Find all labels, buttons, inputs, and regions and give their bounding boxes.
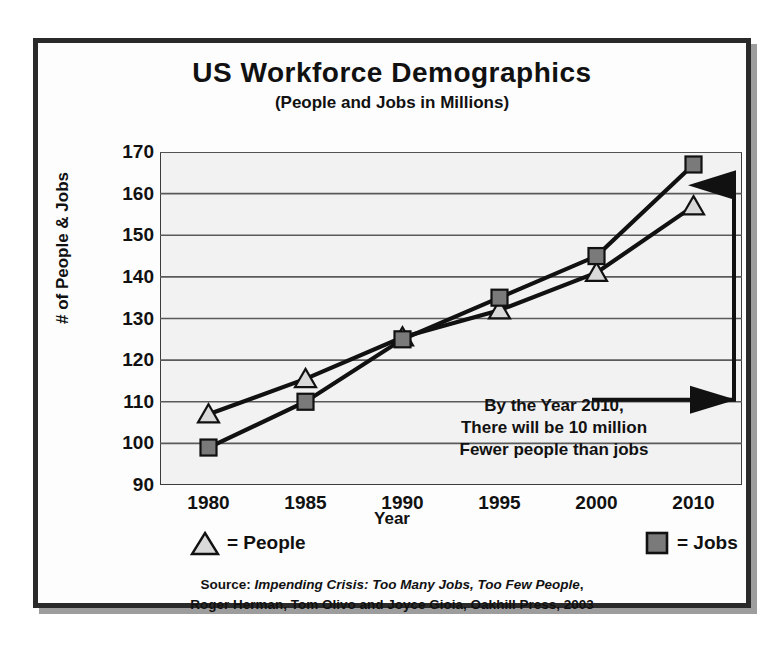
annotation-line-1: By the Year 2010, bbox=[423, 395, 685, 417]
source-prefix: Source: bbox=[200, 577, 250, 592]
legend-jobs-label: = Jobs bbox=[677, 532, 738, 554]
source-title: Impending Crisis: Too Many Jobs, Too Few… bbox=[254, 577, 579, 592]
y-axis-tick-label: 130 bbox=[94, 308, 154, 330]
y-axis-tick-label: 160 bbox=[94, 183, 154, 205]
annotation-line-3: Fewer people than jobs bbox=[423, 439, 685, 461]
source-line-1: Source: Impending Crisis: Too Many Jobs,… bbox=[38, 575, 746, 595]
chart-subtitle: (People and Jobs in Millions) bbox=[38, 93, 746, 113]
x-axis-tick-label: 2010 bbox=[654, 492, 734, 514]
x-axis-tick-label: 1985 bbox=[266, 492, 346, 514]
x-axis-tick-label: 2000 bbox=[557, 492, 637, 514]
y-axis-tick-label: 110 bbox=[94, 391, 154, 413]
chart-figure-inner: US Workforce Demographics (People and Jo… bbox=[38, 43, 746, 603]
triangle-marker-icon bbox=[190, 530, 220, 556]
y-axis-tick-label: 140 bbox=[94, 266, 154, 288]
chart-title: US Workforce Demographics bbox=[38, 57, 746, 89]
legend-item-people: = People bbox=[190, 530, 306, 556]
chart-figure-frame: US Workforce Demographics (People and Jo… bbox=[33, 38, 751, 608]
y-axis-tick-label: 100 bbox=[94, 432, 154, 454]
data-point-jobs-2010 bbox=[686, 156, 702, 172]
data-point-jobs-1980 bbox=[201, 440, 217, 456]
y-axis-tick-label: 90 bbox=[94, 474, 154, 496]
data-point-jobs-1985 bbox=[298, 394, 314, 410]
legend-people-label: = People bbox=[227, 532, 306, 554]
source-comma: , bbox=[580, 577, 584, 592]
y-axis-tick-label: 170 bbox=[94, 141, 154, 163]
x-axis-tick-label: 1990 bbox=[363, 492, 443, 514]
source-block: Source: Impending Crisis: Too Many Jobs,… bbox=[38, 575, 746, 614]
data-point-jobs-2000 bbox=[589, 248, 605, 264]
x-axis-tick-label: 1980 bbox=[169, 492, 249, 514]
data-point-jobs-1990 bbox=[395, 331, 411, 347]
x-axis-tick-label: 1995 bbox=[460, 492, 540, 514]
y-axis-tick-label: 150 bbox=[94, 224, 154, 246]
square-marker-icon bbox=[644, 530, 670, 556]
y-axis-tick-label: 120 bbox=[94, 349, 154, 371]
source-line-2: Roger Herman, Tom Olivo and Joyce Gioia,… bbox=[38, 595, 746, 615]
annotation-line-2: There will be 10 million bbox=[423, 417, 685, 439]
data-point-jobs-1995 bbox=[492, 290, 508, 306]
chart-annotation: By the Year 2010, There will be 10 milli… bbox=[423, 395, 685, 460]
y-axis-title: # of People & Jobs bbox=[53, 133, 73, 363]
legend-item-jobs: = Jobs bbox=[644, 530, 738, 556]
